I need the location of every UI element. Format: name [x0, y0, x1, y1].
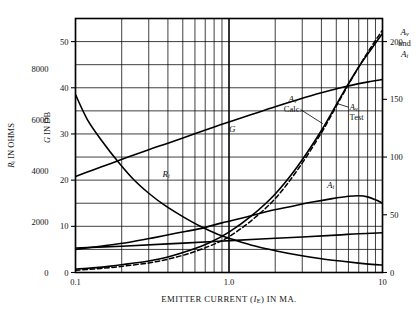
ticklabel-g-db: 30: [60, 129, 69, 139]
ticklabel-g-db: 0: [64, 268, 68, 278]
y-axis-title-ai: Ai: [400, 49, 409, 59]
y-axis-title-ri-ohms: Ri IN OHMS: [6, 123, 16, 169]
leader-line-av-calc: [301, 110, 323, 124]
ticklabel-ri-ohms: 8000: [32, 64, 49, 74]
ticklabel-emitter-current: 10: [378, 277, 387, 287]
curve-label-ri: Ri: [162, 169, 171, 179]
curve-label-g: G: [229, 124, 236, 134]
ticklabel-g-db: 20: [60, 175, 69, 185]
chart-figure: 0102030405002000400060008000050100150200…: [0, 0, 418, 314]
ticklabel-g-db: 10: [60, 221, 69, 231]
ticklabel-emitter-current: 1.0: [224, 277, 235, 287]
leader-lines: [301, 104, 349, 124]
curve-label-av-calc: Av: [288, 94, 298, 104]
x-axis-title: EMITTER CURRENT (IE) IN MA.: [161, 294, 296, 304]
ticklabel-ri-ohms: 0: [44, 268, 48, 278]
leader-line-av-test: [338, 104, 349, 108]
ticklabel-g-db: 40: [60, 83, 69, 93]
y-axis-title-av: Av: [399, 27, 409, 37]
ticklabel-g-db: 50: [60, 37, 69, 47]
y-axis-title-g-db: G IN DB: [42, 112, 52, 143]
ticklabel-ri-ohms: 2000: [32, 217, 49, 227]
y-axis-title-and: and: [398, 38, 411, 48]
ticklabel-emitter-current: 0.1: [70, 277, 81, 287]
curve-label-av-test-sub: Test: [350, 112, 365, 122]
ticklabel-av-ai: 150: [390, 94, 403, 104]
curve-label-av-calc-sub: Calc.: [284, 104, 302, 114]
curve-label-av-test: Av: [349, 102, 359, 112]
curve-label-ai: Ai: [326, 180, 335, 190]
ticklabel-ri-ohms: 4000: [32, 166, 49, 176]
ticklabel-av-ai: 0: [390, 268, 394, 278]
ticklabel-av-ai: 50: [390, 210, 399, 220]
axis-tick-labels: 0102030405002000400060008000050100150200…: [32, 37, 403, 287]
transistor-characteristics-chart: 0102030405002000400060008000050100150200…: [0, 0, 418, 314]
ticklabel-av-ai: 100: [390, 152, 403, 162]
